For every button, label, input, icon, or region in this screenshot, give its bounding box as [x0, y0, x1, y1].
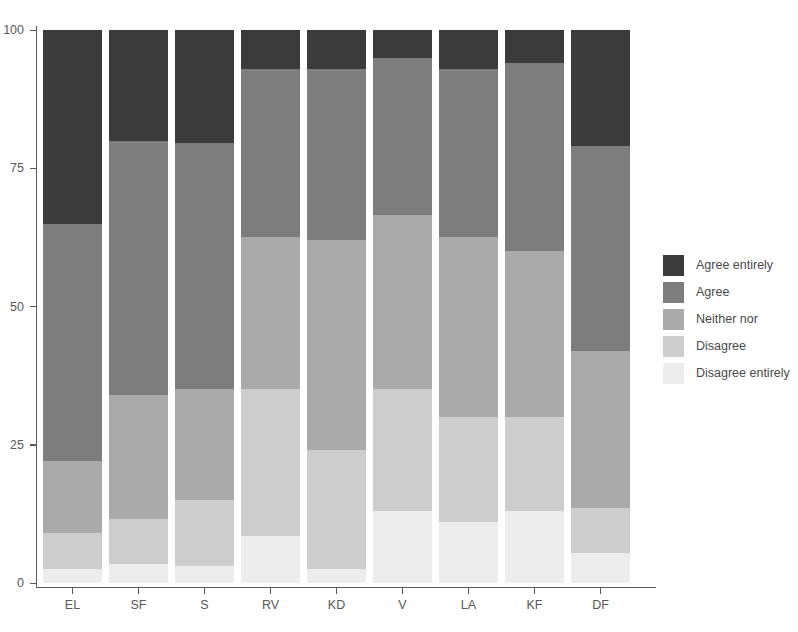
- x-tick-label-la: LA: [434, 599, 504, 612]
- bar-segment: [307, 69, 366, 240]
- bar-segment: [571, 146, 630, 351]
- legend-label: Agree: [696, 286, 729, 299]
- bar-segment: [307, 240, 366, 450]
- bar-segment: [43, 224, 102, 462]
- bar-segment: [43, 30, 102, 224]
- bar-segment: [109, 141, 168, 395]
- bar-segment: [109, 30, 168, 141]
- bar-column-kd: [307, 30, 366, 583]
- legend-label: Neither nor: [696, 313, 758, 326]
- bar-segment: [505, 251, 564, 417]
- bar-segment: [241, 30, 300, 69]
- y-tick-mark: [30, 583, 36, 584]
- plot-area: [43, 30, 631, 583]
- y-tick-label: 100: [0, 24, 24, 37]
- bar-segment: [175, 500, 234, 566]
- bar-segment: [439, 30, 498, 69]
- bar-segment: [373, 215, 432, 389]
- bar-segment: [241, 69, 300, 238]
- bar-segment: [175, 30, 234, 143]
- bar-segment: [505, 417, 564, 511]
- y-tick-mark: [30, 444, 36, 445]
- y-tick-label: 0: [0, 577, 24, 590]
- legend-swatch-icon: [663, 255, 684, 276]
- bar-column-la: [439, 30, 498, 583]
- bar-column-df: [571, 30, 630, 583]
- legend-label: Disagree: [696, 340, 746, 353]
- y-tick-label: 75: [0, 162, 24, 175]
- bar-segment: [373, 30, 432, 58]
- bar-column-s: [175, 30, 234, 583]
- bar-segment: [307, 569, 366, 583]
- legend-swatch-icon: [663, 363, 684, 384]
- bar-segment: [175, 389, 234, 500]
- bar-segment: [43, 461, 102, 533]
- bar-segment: [439, 237, 498, 417]
- x-tick-mark: [534, 588, 535, 594]
- legend-item[interactable]: Agree entirely: [663, 252, 790, 279]
- x-tick-mark: [270, 588, 271, 594]
- legend-item[interactable]: Disagree entirely: [663, 360, 790, 387]
- x-tick-mark: [72, 588, 73, 594]
- bar-segment: [571, 553, 630, 583]
- bar-segment: [373, 389, 432, 511]
- bar-segment: [43, 533, 102, 569]
- bar-segment: [373, 58, 432, 216]
- bar-segment: [43, 569, 102, 583]
- x-tick-mark: [402, 588, 403, 594]
- bar-segment: [571, 30, 630, 146]
- bar-segment: [571, 508, 630, 552]
- x-tick-mark: [138, 588, 139, 594]
- legend-label: Agree entirely: [696, 259, 773, 272]
- legend-swatch-icon: [663, 336, 684, 357]
- legend-swatch-icon: [663, 309, 684, 330]
- y-tick-label: 25: [0, 439, 24, 452]
- bar-segment: [505, 30, 564, 63]
- bar-segment: [571, 351, 630, 509]
- x-tick-label-kf: KF: [500, 599, 570, 612]
- y-tick-mark: [30, 306, 36, 307]
- x-tick-mark: [468, 588, 469, 594]
- x-tick-mark: [336, 588, 337, 594]
- bar-segment: [175, 566, 234, 583]
- bar-column-rv: [241, 30, 300, 583]
- x-tick-mark: [600, 588, 601, 594]
- legend-label: Disagree entirely: [696, 367, 790, 380]
- chart-legend: Agree entirelyAgreeNeither norDisagreeDi…: [663, 252, 790, 387]
- bar-segment: [109, 564, 168, 583]
- bar-column-kf: [505, 30, 564, 583]
- legend-item[interactable]: Disagree: [663, 333, 790, 360]
- bar-column-v: [373, 30, 432, 583]
- x-tick-label-s: S: [170, 599, 240, 612]
- bar-segment: [241, 237, 300, 389]
- legend-swatch-icon: [663, 282, 684, 303]
- x-tick-label-el: EL: [38, 599, 108, 612]
- stacked-bar-chart: Agree entirelyAgreeNeither norDisagreeDi…: [0, 0, 798, 632]
- x-axis-line: [36, 587, 656, 588]
- bar-segment: [373, 511, 432, 583]
- bar-segment: [439, 417, 498, 522]
- x-tick-label-sf: SF: [104, 599, 174, 612]
- y-tick-mark: [30, 30, 36, 31]
- bar-segment: [109, 519, 168, 563]
- bar-segment: [439, 69, 498, 238]
- bar-column-sf: [109, 30, 168, 583]
- bar-segment: [307, 450, 366, 569]
- legend-item[interactable]: Neither nor: [663, 306, 790, 333]
- bar-segment: [175, 143, 234, 389]
- legend-item[interactable]: Agree: [663, 279, 790, 306]
- x-tick-label-rv: RV: [236, 599, 306, 612]
- bar-segment: [439, 522, 498, 583]
- bar-segment: [505, 511, 564, 583]
- bar-column-el: [43, 30, 102, 583]
- y-tick-label: 50: [0, 301, 24, 314]
- x-tick-mark: [204, 588, 205, 594]
- bar-segment: [307, 30, 366, 69]
- bar-segment: [241, 389, 300, 536]
- bar-segment: [241, 536, 300, 583]
- bar-segment: [109, 395, 168, 519]
- x-tick-label-kd: KD: [302, 599, 372, 612]
- y-tick-mark: [30, 168, 36, 169]
- bar-segment: [505, 63, 564, 251]
- x-tick-label-v: V: [368, 599, 438, 612]
